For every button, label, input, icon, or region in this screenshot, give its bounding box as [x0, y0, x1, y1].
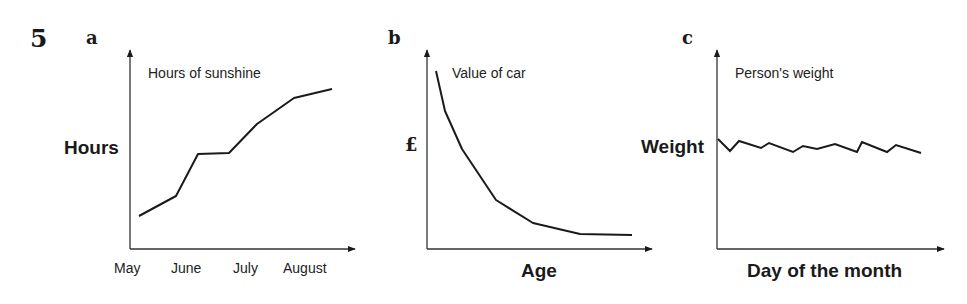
panel-c-y-axis-label: Weight: [641, 137, 704, 156]
panel-a-y-axis-label: Hours: [64, 138, 119, 157]
charts-canvas: [0, 0, 967, 304]
panel-b-title: Value of car: [452, 66, 526, 80]
question-number: 5: [30, 26, 47, 51]
panel-b-label: b: [388, 29, 401, 47]
panel-b-y-axis-label: £: [405, 136, 418, 154]
weight-line: [718, 139, 921, 153]
sunshine-line: [139, 89, 332, 216]
panel-c-x-axis-label: Day of the month: [747, 261, 902, 280]
panel-b-x-axis-label: Age: [521, 261, 557, 280]
panel-c-title: Person's weight: [735, 66, 833, 80]
car-value-line: [436, 71, 632, 235]
panel-a-title: Hours of sunshine: [148, 66, 261, 80]
panel-a-tick-june: June: [171, 261, 201, 275]
panel-a-tick-july: July: [233, 261, 258, 275]
panel-a-tick-august: August: [283, 261, 327, 275]
panel-a-tick-may: May: [114, 261, 140, 275]
panel-c-label: c: [682, 29, 693, 47]
panel-a-label: a: [86, 29, 98, 47]
